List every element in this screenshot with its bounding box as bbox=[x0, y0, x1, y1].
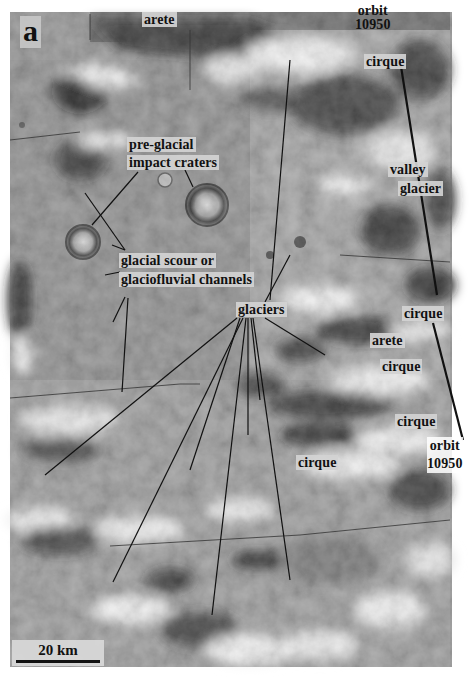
label-orbit-top: orbit 10950 bbox=[353, 4, 393, 32]
scale-bar: 20 km bbox=[12, 640, 104, 666]
label-orbit-bottom-line2: 10950 bbox=[427, 455, 463, 473]
label-arete-top: arete bbox=[142, 12, 177, 27]
label-cirque-bottom: cirque bbox=[296, 455, 338, 470]
panel-letter: a bbox=[20, 16, 41, 48]
label-valley-glacier-line2: glacier bbox=[398, 181, 443, 196]
label-pre-glacial-line1: pre-glacial bbox=[127, 137, 196, 152]
label-valley-glacier-line1: valley bbox=[388, 162, 428, 177]
mars-glacial-terrain-figure: a arete orbit 10950 cirque pre-glacial i… bbox=[0, 0, 475, 677]
scale-bar-line bbox=[16, 660, 100, 663]
label-cirque-top: cirque bbox=[364, 54, 406, 69]
label-glacial-scour-line1: glacial scour or bbox=[119, 253, 216, 268]
label-orbit-top-line1: orbit bbox=[355, 4, 391, 18]
label-cirque-right-1: cirque bbox=[402, 306, 444, 321]
label-orbit-bottom: orbit 10950 bbox=[427, 437, 463, 473]
label-pre-glacial-line2: impact craters bbox=[127, 155, 219, 170]
label-orbit-bottom-line1: orbit bbox=[427, 437, 463, 455]
label-arete-mid: arete bbox=[370, 333, 405, 348]
scale-bar-label: 20 km bbox=[12, 642, 104, 659]
label-glacial-scour-line2: glaciofluvial channels bbox=[119, 272, 254, 287]
label-glaciers: glaciers bbox=[236, 302, 287, 317]
label-orbit-top-line2: 10950 bbox=[355, 18, 391, 32]
label-cirque-right-2: cirque bbox=[380, 359, 422, 374]
label-cirque-right-3: cirque bbox=[395, 414, 437, 429]
